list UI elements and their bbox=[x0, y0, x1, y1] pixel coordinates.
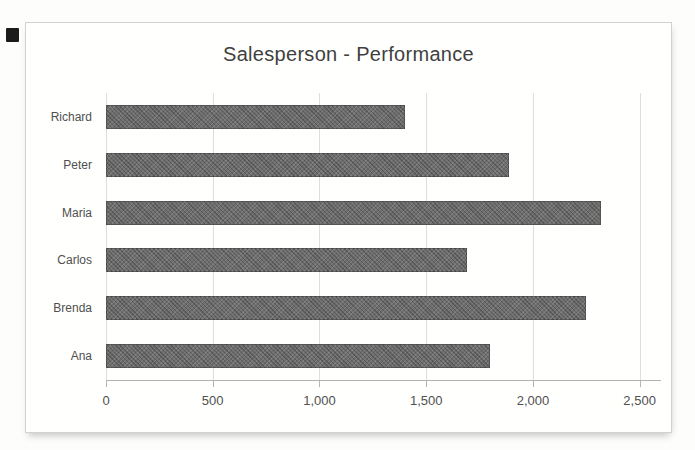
bar-row: Richard bbox=[106, 93, 661, 141]
bar bbox=[106, 248, 467, 272]
bar-row: Maria bbox=[106, 189, 661, 237]
x-axis-tick-mark bbox=[533, 381, 534, 387]
x-axis-tick-label: 2,000 bbox=[517, 393, 550, 408]
bar bbox=[106, 344, 490, 368]
category-label: Ana bbox=[71, 349, 92, 363]
x-axis-tick-mark bbox=[426, 381, 427, 387]
x-axis-tick-label: 1,000 bbox=[303, 393, 336, 408]
bar bbox=[106, 201, 601, 225]
plot-area: RichardPeterMariaCarlosBrendaAna bbox=[106, 93, 661, 381]
scan-artifact-mark bbox=[6, 28, 19, 42]
x-axis-tick-label: 2,500 bbox=[623, 393, 656, 408]
x-axis: 05001,0001,5002,0002,500 bbox=[106, 381, 661, 421]
category-label: Carlos bbox=[57, 253, 92, 267]
chart-title: Salesperson - Performance bbox=[26, 42, 671, 66]
bar bbox=[106, 296, 586, 320]
bar-row: Ana bbox=[106, 332, 661, 380]
chart-frame: Salesperson - Performance RichardPeterMa… bbox=[25, 22, 672, 433]
bar bbox=[106, 153, 509, 177]
scanned-page: Salesperson - Performance RichardPeterMa… bbox=[0, 0, 695, 450]
x-axis-tick-mark bbox=[213, 381, 214, 387]
category-label: Richard bbox=[51, 110, 92, 124]
x-axis-tick-label: 0 bbox=[102, 393, 109, 408]
x-axis-tick-label: 1,500 bbox=[410, 393, 443, 408]
category-label: Maria bbox=[62, 206, 92, 220]
category-label: Peter bbox=[63, 158, 92, 172]
x-axis-tick-mark bbox=[106, 381, 107, 387]
bar-row: Carlos bbox=[106, 236, 661, 284]
bar-row: Peter bbox=[106, 141, 661, 189]
category-label: Brenda bbox=[53, 301, 92, 315]
x-axis-tick-mark bbox=[640, 381, 641, 387]
x-axis-tick-label: 500 bbox=[202, 393, 224, 408]
x-axis-tick-mark bbox=[319, 381, 320, 387]
bar bbox=[106, 105, 405, 129]
bar-row: Brenda bbox=[106, 284, 661, 332]
bars-layer: RichardPeterMariaCarlosBrendaAna bbox=[106, 93, 661, 380]
